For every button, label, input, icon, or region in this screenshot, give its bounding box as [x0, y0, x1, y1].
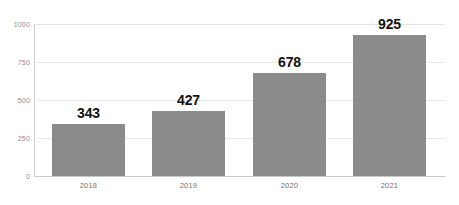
bar-2019[interactable]: [152, 111, 225, 176]
bar-value-label: 925: [353, 16, 426, 32]
x-axis-tick-label-2018: 2018: [52, 181, 125, 190]
y-axis-tick-label: 750: [2, 59, 30, 66]
y-axis-tick-label: 1000: [2, 21, 30, 28]
bar-value-label: 427: [152, 92, 225, 108]
bar-2021[interactable]: [353, 35, 426, 176]
y-axis-tick-label: 250: [2, 135, 30, 142]
x-axis-tick-label-2021: 2021: [353, 181, 426, 190]
y-axis-tick-labels: 1000 750 500 250 0: [0, 24, 30, 176]
bar-value-label: 343: [52, 105, 125, 121]
plot-area: 343 427 678 925: [34, 24, 445, 176]
y-axis-tick-label: 500: [2, 97, 30, 104]
bar-2018[interactable]: [52, 124, 125, 176]
x-axis-tick-label-2019: 2019: [152, 181, 225, 190]
x-axis-tick-label-2020: 2020: [253, 181, 326, 190]
y-axis-tick-label: 0: [2, 173, 30, 180]
bar-value-label: 678: [253, 54, 326, 70]
x-axis-tick-labels: 2018 2019 2020 2021: [34, 181, 445, 197]
bar-chart: 1000 750 500 250 0 343 427 678 925: [0, 0, 459, 205]
gridline-zero: [34, 176, 445, 177]
bar-2020[interactable]: [253, 73, 326, 176]
